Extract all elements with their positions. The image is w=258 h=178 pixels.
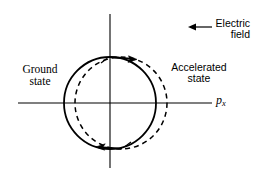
ground-state-label: Ground state bbox=[8, 63, 72, 88]
electric-field-label: Electric field bbox=[192, 18, 250, 41]
top-arrow-flick bbox=[101, 59, 107, 64]
px-axis-subscript: x bbox=[222, 98, 226, 108]
px-axis-label: px bbox=[216, 94, 226, 108]
physics-figure: Ground state Accelerated state Electric … bbox=[0, 0, 258, 178]
accelerated-state-label: Accelerated state bbox=[168, 62, 230, 85]
